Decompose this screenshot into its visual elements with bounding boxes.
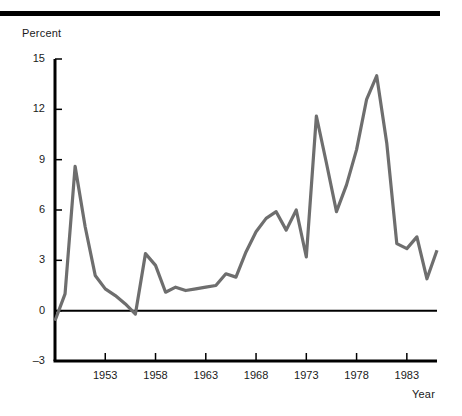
x-tick-label: 1978 bbox=[337, 369, 377, 381]
y-tick-label: 15 bbox=[19, 52, 45, 64]
chart-figure: Percent Year 15129630–3 1953195819631968… bbox=[0, 0, 462, 416]
x-tick-label: 1958 bbox=[136, 369, 176, 381]
x-tick-label: 1953 bbox=[85, 369, 125, 381]
x-tick-label: 1973 bbox=[286, 369, 326, 381]
chart-svg bbox=[0, 0, 462, 416]
plot-area: 15129630–3 1953195819631968197319781983 bbox=[0, 0, 462, 416]
y-tick-label: 0 bbox=[19, 304, 45, 316]
x-tick-label: 1968 bbox=[236, 369, 276, 381]
x-tick-label: 1963 bbox=[186, 369, 226, 381]
x-tick-label: 1983 bbox=[387, 369, 427, 381]
series-line-percent bbox=[55, 76, 437, 321]
y-tick-label: 12 bbox=[19, 102, 45, 114]
y-tick-label: 9 bbox=[19, 153, 45, 165]
y-tick-label: 6 bbox=[19, 203, 45, 215]
y-tick-label: 3 bbox=[19, 253, 45, 265]
y-tick-label: –3 bbox=[19, 354, 45, 366]
